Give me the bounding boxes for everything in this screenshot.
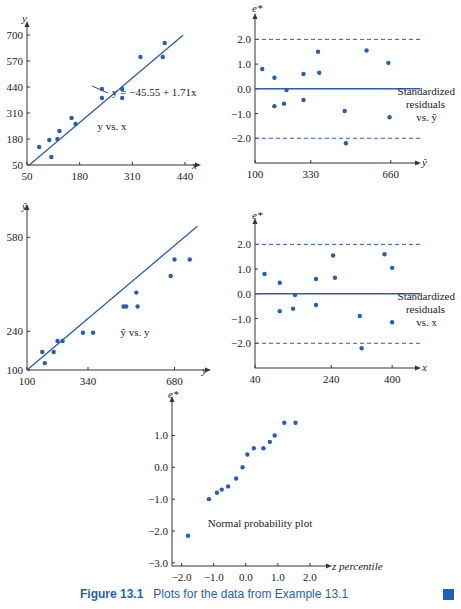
svg-text:vs. x: vs. x: [416, 316, 437, 328]
svg-text:50: 50: [12, 159, 24, 171]
svg-text:180: 180: [71, 170, 88, 182]
data-point: [364, 48, 368, 52]
svg-text:−1.0: −1.0: [231, 313, 251, 325]
svg-text:2.0: 2.0: [237, 33, 251, 45]
chart-title: Standardized: [398, 85, 456, 97]
y-axis-label: e*: [252, 209, 263, 221]
chart-panel-5: z percentilee*−2.0−1.00.01.02.0−3.0−2.0−…: [148, 388, 383, 583]
y-axis-label: ŷ: [21, 200, 27, 212]
data-point: [293, 421, 297, 425]
svg-text:−3.0: −3.0: [148, 557, 168, 569]
caption-number: Figure 13.1: [80, 587, 143, 601]
data-point: [387, 115, 391, 119]
svg-text:0.0: 0.0: [239, 571, 253, 583]
svg-text:440: 440: [7, 81, 24, 93]
data-point: [120, 87, 124, 91]
svg-text:680: 680: [166, 375, 183, 387]
data-point: [390, 320, 394, 324]
svg-text:660: 660: [383, 168, 400, 180]
data-point: [333, 276, 337, 280]
svg-text:−1.0: −1.0: [148, 493, 168, 505]
svg-text:240: 240: [7, 325, 24, 337]
data-point: [43, 361, 47, 365]
data-point: [226, 484, 230, 488]
regression-line: [29, 35, 183, 165]
svg-text:−2.0: −2.0: [231, 132, 251, 144]
data-point: [37, 145, 41, 149]
data-point: [261, 446, 265, 450]
svg-text:−2.0: −2.0: [231, 337, 251, 349]
end-of-figure-marker: [443, 589, 454, 600]
svg-text:2.0: 2.0: [237, 238, 251, 250]
svg-text:−1.0: −1.0: [204, 571, 224, 583]
svg-text:100: 100: [7, 364, 24, 376]
data-point: [314, 277, 318, 281]
data-point: [282, 101, 286, 105]
data-point: [314, 303, 318, 307]
data-point: [207, 497, 211, 501]
x-axis-label: z percentile: [331, 560, 383, 572]
data-point: [60, 339, 64, 343]
data-point: [57, 129, 61, 133]
data-point: [260, 67, 264, 71]
chart-title: ŷ vs. y: [120, 326, 150, 338]
data-point: [100, 87, 104, 91]
data-point: [282, 421, 286, 425]
y-axis-label: e*: [168, 388, 179, 400]
svg-text:400: 400: [384, 373, 401, 385]
svg-text:1.0: 1.0: [154, 429, 168, 441]
svg-text:100: 100: [19, 375, 36, 387]
data-point: [52, 350, 56, 354]
chart-title: Normal probability plot: [208, 517, 312, 529]
data-point: [390, 266, 394, 270]
data-point: [301, 72, 305, 76]
data-point: [316, 50, 320, 54]
svg-text:−2.0: −2.0: [172, 571, 192, 583]
data-point: [138, 55, 142, 59]
data-point: [272, 75, 276, 79]
data-point: [291, 306, 295, 310]
svg-text:310: 310: [7, 107, 24, 119]
svg-text:−2.0: −2.0: [148, 525, 168, 537]
svg-text:1.0: 1.0: [237, 58, 251, 70]
data-point: [359, 346, 363, 350]
chart-panel-4: xe*40240400−2.0−1.00.01.02.0Standardized…: [231, 209, 455, 385]
data-point: [135, 304, 139, 308]
svg-text:0.0: 0.0: [154, 461, 168, 473]
data-point: [134, 290, 138, 294]
chart-panel-2: ŷe*100330660−2.0−1.00.01.02.0Standardize…: [231, 2, 455, 180]
svg-text:570: 570: [7, 55, 24, 67]
data-point: [161, 55, 165, 59]
x-axis-label: y: [201, 364, 207, 376]
caption-text: Plots for the data from Example 13.1: [153, 587, 348, 601]
data-point: [220, 487, 224, 491]
regression-line: [27, 226, 197, 370]
data-point: [163, 41, 167, 45]
data-point: [382, 252, 386, 256]
svg-text:330: 330: [303, 168, 320, 180]
data-point: [262, 272, 266, 276]
data-point: [73, 122, 77, 126]
data-point: [91, 330, 95, 334]
data-point: [55, 137, 59, 141]
regression-equation: y = −45.55 + 1.71x: [112, 86, 197, 98]
svg-text:310: 310: [124, 170, 141, 182]
data-point: [186, 534, 190, 538]
data-point: [344, 141, 348, 145]
svg-text:100: 100: [247, 168, 264, 180]
data-point: [358, 314, 362, 318]
data-point: [301, 98, 305, 102]
chart-title: Standardized: [398, 290, 456, 302]
data-point: [55, 339, 59, 343]
svg-text:240: 240: [323, 373, 340, 385]
figure-canvas: xy5018031044050180310440570700y = −45.55…: [0, 0, 461, 609]
data-point: [40, 350, 44, 354]
data-point: [245, 452, 249, 456]
data-point: [272, 433, 276, 437]
y-axis-label: e*: [252, 2, 263, 14]
svg-text:50: 50: [22, 170, 34, 182]
svg-text:0.0: 0.0: [237, 288, 251, 300]
svg-text:0.0: 0.0: [237, 83, 251, 95]
data-point: [252, 446, 256, 450]
data-point: [331, 253, 335, 257]
